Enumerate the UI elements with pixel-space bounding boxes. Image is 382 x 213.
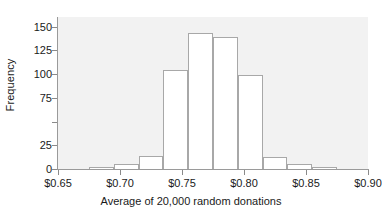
x-axis-tick-labels: $0.65$0.70$0.75$0.80$0.85$0.90 xyxy=(0,178,382,194)
x-axis-tick-marks xyxy=(0,170,382,175)
y-axis-tick-label: 25 xyxy=(40,140,52,151)
histogram-bar xyxy=(263,157,288,169)
y-axis-tick-label: 150 xyxy=(34,21,52,32)
x-axis-title: Average of 20,000 random donations xyxy=(0,195,382,207)
x-axis-tick-mark xyxy=(58,170,59,175)
x-axis-tick-mark xyxy=(368,170,369,175)
y-axis-tick-label: 75 xyxy=(40,92,52,103)
x-axis-tick-label: $0.90 xyxy=(354,178,382,189)
plot-area xyxy=(58,17,368,169)
histogram-bar xyxy=(238,75,263,169)
y-axis-tick-label: 125 xyxy=(34,45,52,56)
x-axis-tick-label: $0.70 xyxy=(106,178,134,189)
y-axis-title-text: Frequency xyxy=(4,59,16,112)
x-axis-tick-mark xyxy=(182,170,183,175)
y-axis-title: Frequency xyxy=(0,0,20,170)
x-axis-tick-mark xyxy=(120,170,121,175)
x-axis-tick-label: $0.65 xyxy=(44,178,72,189)
y-axis-tick-label: 100 xyxy=(34,69,52,80)
x-axis-tick-label: $0.80 xyxy=(230,178,258,189)
x-axis-tick-label: $0.75 xyxy=(168,178,196,189)
y-axis-tick-labels: 02575100125150 xyxy=(18,0,52,175)
histogram-bar xyxy=(188,33,213,169)
x-axis-tick-label: $0.85 xyxy=(292,178,320,189)
histogram-bar xyxy=(163,70,188,169)
x-axis-tick-mark xyxy=(306,170,307,175)
histogram-figure: Frequency 02575100125150 $0.65$0.70$0.75… xyxy=(0,0,382,213)
histogram-bar xyxy=(139,156,164,169)
x-axis-tick-mark xyxy=(244,170,245,175)
histogram-bar xyxy=(213,37,238,169)
